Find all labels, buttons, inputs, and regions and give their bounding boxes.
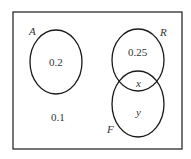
value-F: y bbox=[135, 106, 141, 118]
label-A: A bbox=[28, 25, 36, 37]
label-R: R bbox=[159, 26, 167, 38]
value-outside: 0.1 bbox=[51, 111, 65, 123]
value-R: 0.25 bbox=[128, 46, 148, 58]
label-F: F bbox=[106, 123, 114, 135]
venn-diagram: A 0.2 R 0.25 x y F 0.1 bbox=[0, 0, 191, 159]
value-A: 0.2 bbox=[49, 56, 63, 68]
value-intersection: x bbox=[135, 77, 141, 89]
